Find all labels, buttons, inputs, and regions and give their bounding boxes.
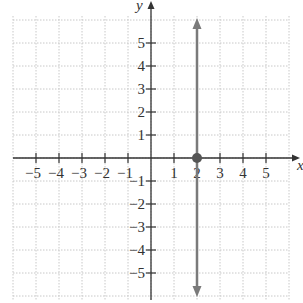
plotted-series <box>192 18 202 297</box>
y-tick-label: −3 <box>129 219 145 235</box>
y-tick-label: −5 <box>129 265 145 281</box>
x-tick-label: 5 <box>262 165 270 181</box>
x-tick-label: −2 <box>94 165 110 181</box>
axes <box>13 1 300 300</box>
y-tick-label: 5 <box>138 35 146 51</box>
y-tick-label: 2 <box>138 104 146 120</box>
x-tick-label: 1 <box>170 165 178 181</box>
y-tick-label: 3 <box>138 81 146 97</box>
y-tick-label: 1 <box>138 127 146 143</box>
line-arrow-down-icon <box>193 286 202 297</box>
y-tick-label: −2 <box>129 196 145 212</box>
y-tick-label: −4 <box>129 242 145 258</box>
y-axis-label: y <box>134 0 143 13</box>
y-tick-label: 4 <box>138 58 146 74</box>
x-tick-label: −3 <box>71 165 87 181</box>
y-axis-arrow-icon <box>148 1 155 9</box>
x-tick-label: 4 <box>239 165 247 181</box>
coordinate-plane: −5−4−3−2−112345−5−4−3−2−112345 x y <box>0 0 303 303</box>
x-tick-label: 3 <box>216 165 224 181</box>
point-x-intercept <box>192 153 202 163</box>
x-axis-label: x <box>296 157 303 173</box>
x-tick-label: −4 <box>48 165 64 181</box>
y-tick-label: −1 <box>129 173 145 189</box>
x-tick-label: −5 <box>25 165 41 181</box>
